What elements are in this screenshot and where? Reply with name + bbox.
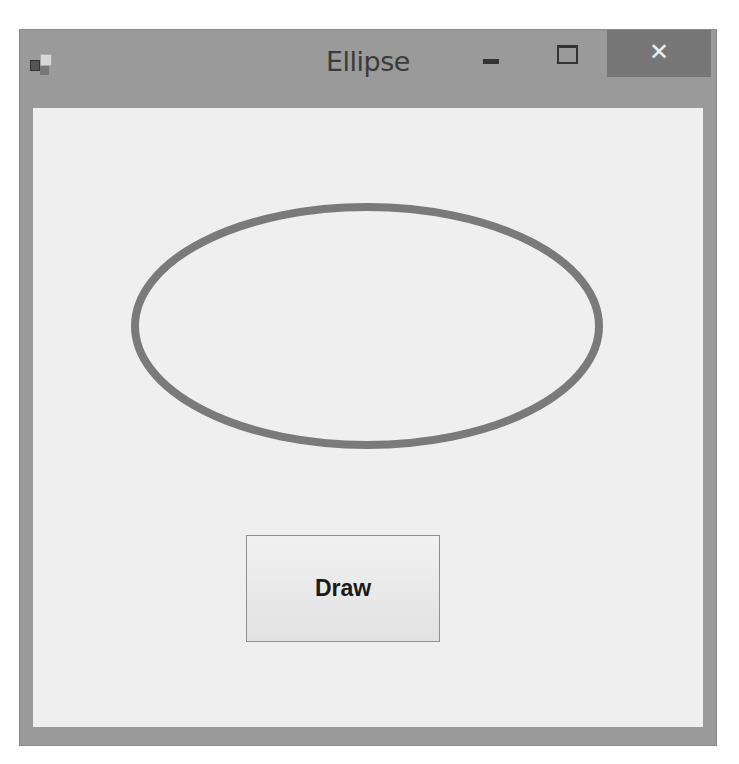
minimize-button[interactable] xyxy=(483,59,499,64)
maximize-button[interactable] xyxy=(557,45,578,64)
draw-button-label: Draw xyxy=(315,575,371,602)
draw-button[interactable]: Draw xyxy=(246,535,440,642)
app-window: Ellipse ✕ Draw xyxy=(20,30,716,745)
title-bar[interactable]: Ellipse ✕ xyxy=(20,30,716,104)
close-button[interactable]: ✕ xyxy=(607,30,711,77)
close-icon: ✕ xyxy=(649,38,669,66)
client-area: Draw xyxy=(33,108,703,727)
